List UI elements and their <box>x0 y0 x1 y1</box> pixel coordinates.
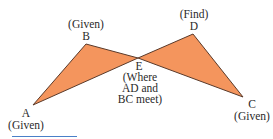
label-b-note: (Given) <box>64 19 108 30</box>
label-e-note-3: BC meet) <box>112 94 168 105</box>
label-c-note: (Given) <box>230 111 273 122</box>
label-a: A <box>18 108 34 119</box>
label-d: D <box>184 21 204 32</box>
label-a-note: (Given) <box>4 120 48 131</box>
label-d-note: (Find) <box>174 9 214 20</box>
label-b: B <box>76 31 96 42</box>
label-c: C <box>244 99 260 110</box>
